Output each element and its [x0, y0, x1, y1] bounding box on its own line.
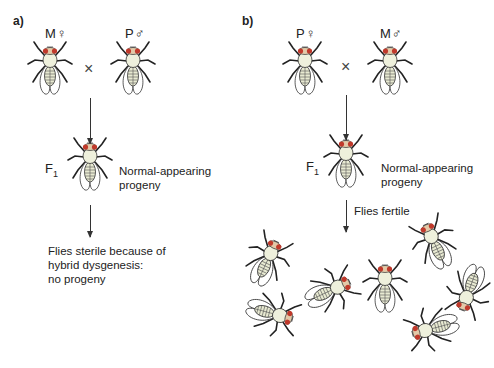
f1-subscript: 1	[53, 169, 58, 179]
parent-right-label-b: M♂	[380, 26, 403, 41]
fly-icon	[467, 296, 468, 297]
parent-left-label-a: M♀	[45, 26, 68, 41]
fly-icon	[278, 315, 279, 316]
outcome-line1: Flies sterile because of	[48, 244, 166, 258]
f1-subscript: 1	[314, 167, 319, 177]
fly-icon	[133, 62, 134, 63]
fly-icon	[385, 280, 386, 281]
fly-icon	[50, 62, 51, 63]
cross-symbol-b: ×	[341, 58, 350, 76]
arrow-down-icon	[346, 95, 347, 140]
panel-b-label: b)	[242, 14, 253, 28]
outcome-line3: no progeny	[48, 272, 166, 286]
parent-left-label-b: P♀	[296, 26, 316, 41]
f1-description-line1: Normal-appearing	[381, 161, 473, 175]
arrow-down-icon	[90, 98, 91, 144]
arrow-label-b: Flies fertile	[354, 204, 410, 218]
f1-description-a: Normal-appearing progeny	[119, 164, 211, 192]
outcome-text-a: Flies sterile because of hybrid dysgenes…	[48, 244, 166, 286]
f1-description-line1: Normal-appearing	[119, 164, 211, 178]
fly-icon	[390, 62, 391, 63]
f1-description-b: Normal-appearing progeny	[381, 161, 473, 189]
f1-description-line2: progeny	[119, 178, 211, 192]
fly-icon	[346, 155, 347, 156]
panel-a-label: a)	[13, 14, 24, 28]
cross-symbol-a: ×	[84, 60, 93, 78]
parent-right-label-a: P♂	[125, 26, 145, 41]
fly-icon	[90, 158, 91, 159]
outcome-line2: hybrid dysgenesis:	[48, 258, 166, 272]
arrow-down-icon	[90, 205, 91, 237]
fly-icon	[432, 238, 433, 239]
f1-text: F	[45, 161, 53, 176]
arrow-down-icon	[346, 200, 347, 232]
fly-icon	[427, 330, 428, 331]
fly-icon	[336, 288, 337, 289]
fly-icon	[305, 62, 306, 63]
fly-icon	[270, 255, 271, 256]
f1-text: F	[306, 159, 314, 174]
f1-description-line2: progeny	[381, 175, 473, 189]
f1-label-a: F1	[45, 162, 58, 181]
f1-label-b: F1	[306, 160, 319, 179]
